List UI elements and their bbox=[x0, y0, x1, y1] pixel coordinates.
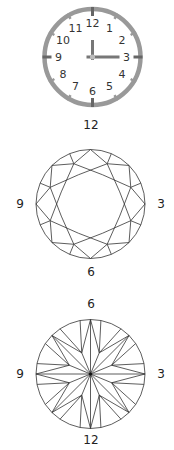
crown-label-bottom: 6 bbox=[76, 266, 106, 278]
crown-label-right: 3 bbox=[146, 198, 174, 210]
svg-text:9: 9 bbox=[55, 51, 62, 64]
svg-text:3: 3 bbox=[123, 51, 130, 64]
pavilion-label-top: 6 bbox=[76, 298, 106, 310]
pavilion-label-bottom: 12 bbox=[76, 434, 106, 446]
svg-text:10: 10 bbox=[56, 34, 70, 47]
pavilion-label-left: 9 bbox=[5, 368, 35, 380]
pavilion-label-right: 3 bbox=[146, 368, 174, 380]
svg-text:12: 12 bbox=[86, 17, 100, 30]
crown-label-left: 9 bbox=[5, 198, 35, 210]
svg-text:2: 2 bbox=[118, 34, 125, 47]
diamond-crown-diagram bbox=[36, 150, 145, 259]
diamond-pavilion-diagram bbox=[36, 320, 145, 429]
diagram-canvas: 121234567891011 bbox=[0, 0, 174, 450]
svg-text:6: 6 bbox=[89, 85, 96, 98]
clock-icon: 121234567891011 bbox=[43, 7, 143, 107]
svg-text:4: 4 bbox=[118, 68, 125, 81]
svg-text:7: 7 bbox=[72, 80, 79, 93]
svg-text:5: 5 bbox=[106, 80, 113, 93]
svg-text:1: 1 bbox=[106, 22, 113, 35]
svg-text:11: 11 bbox=[69, 22, 83, 35]
crown-label-top: 12 bbox=[76, 119, 106, 131]
svg-text:8: 8 bbox=[60, 68, 67, 81]
